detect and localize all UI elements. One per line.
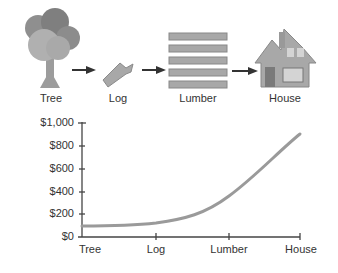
y-tick-label: $200 <box>4 207 74 219</box>
stage-label-house: House <box>255 92 315 104</box>
y-tick-label: $0 <box>4 230 74 242</box>
x-axis <box>78 233 300 240</box>
y-axis <box>78 122 86 237</box>
y-tick-label: $400 <box>4 185 74 197</box>
x-tick-label: House <box>271 243 331 255</box>
stage-label-log: Log <box>88 92 148 104</box>
arrow-icon <box>142 66 166 74</box>
x-tick-label: Lumber <box>199 243 259 255</box>
x-tick-label: Tree <box>60 243 120 255</box>
tree-icon <box>25 8 80 88</box>
arrow-icon <box>232 67 258 75</box>
arrow-icon <box>72 66 96 74</box>
y-tick-label: $1,000 <box>4 116 74 128</box>
y-tick-label: $600 <box>4 162 74 174</box>
lumber-icon <box>169 33 227 88</box>
y-tick-label: $800 <box>4 139 74 151</box>
value-curve <box>82 134 300 226</box>
stage-label-tree: Tree <box>21 92 81 104</box>
house-icon <box>255 29 316 87</box>
log-icon <box>103 63 133 87</box>
stage-label-lumber: Lumber <box>168 92 228 104</box>
x-tick-label: Log <box>126 243 186 255</box>
